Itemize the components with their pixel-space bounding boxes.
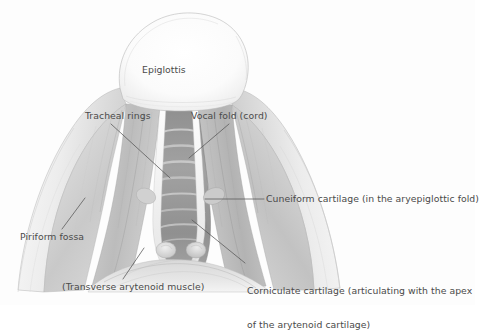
- label-corniculate-cartilage: Corniculate cartilage (articulating with…: [247, 262, 472, 334]
- label-cuneiform-cartilage: Cuneiform cartilage (in the aryepiglotti…: [266, 193, 479, 204]
- label-epiglottis: Epiglottis: [142, 64, 186, 75]
- corniculate-tubercle-right: [186, 242, 206, 258]
- label-vocal-fold: Vocal fold (cord): [191, 110, 268, 121]
- label-transverse-arytenoid-muscle: (Transverse arytenoid muscle): [62, 281, 204, 292]
- label-tracheal-rings: Tracheal rings: [85, 110, 151, 121]
- corniculate-tubercle-left: [156, 242, 176, 258]
- label-piriform-fossa: Piriform fossa: [20, 231, 84, 242]
- label-corniculate-cartilage-line1: Corniculate cartilage (articulating with…: [247, 285, 472, 296]
- epiglottis-shape: [119, 13, 248, 111]
- label-corniculate-cartilage-line2: of the arytenoid cartilage): [247, 319, 472, 330]
